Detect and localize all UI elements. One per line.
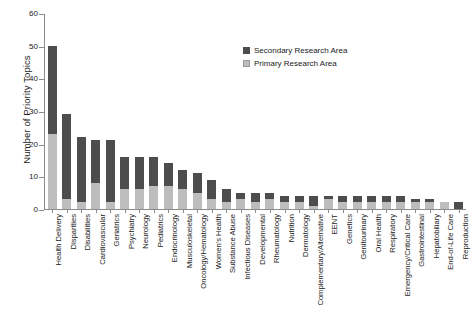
bar-segment-primary[interactable]: [265, 199, 274, 209]
stacked-bar[interactable]: [48, 46, 57, 209]
bar-segment-primary[interactable]: [164, 186, 173, 209]
bar-segment-secondary[interactable]: [251, 193, 260, 203]
bar-segment-secondary[interactable]: [178, 170, 187, 190]
bar-segment-secondary[interactable]: [91, 140, 100, 182]
stacked-bar[interactable]: [324, 196, 333, 209]
bar-slot[interactable]: [234, 14, 249, 209]
bar-slot[interactable]: [89, 14, 104, 209]
bar-slot[interactable]: [248, 14, 263, 209]
bar-segment-primary[interactable]: [120, 189, 129, 209]
bar-slot[interactable]: [103, 14, 118, 209]
stacked-bar[interactable]: [265, 193, 274, 209]
x-axis-label: Reproduction: [462, 214, 470, 259]
stacked-bar[interactable]: [251, 193, 260, 209]
bar-slot[interactable]: [393, 14, 408, 209]
bar-segment-secondary[interactable]: [207, 180, 216, 200]
bar-slot[interactable]: [437, 14, 452, 209]
x-axis-tick: [226, 209, 227, 213]
bar-slot[interactable]: [306, 14, 321, 209]
bar-slot[interactable]: [350, 14, 365, 209]
stacked-bar[interactable]: [295, 196, 304, 209]
stacked-bar[interactable]: [207, 180, 216, 209]
bar-slot[interactable]: [45, 14, 60, 209]
legend-item-primary: Primary Research Area: [243, 58, 347, 69]
x-axis-tick: [459, 209, 460, 213]
bar-slot[interactable]: [205, 14, 220, 209]
x-axis-tick: [81, 209, 82, 213]
bar-slot[interactable]: [118, 14, 133, 209]
stacked-bar[interactable]: [178, 170, 187, 209]
stacked-bar[interactable]: [396, 196, 405, 209]
bar-slot[interactable]: [132, 14, 147, 209]
bar-segment-secondary[interactable]: [309, 196, 318, 206]
stacked-bar[interactable]: [91, 140, 100, 209]
bar-segment-secondary[interactable]: [120, 157, 129, 190]
bar-slot[interactable]: [451, 14, 466, 209]
bar-slot[interactable]: [60, 14, 75, 209]
bar-segment-primary[interactable]: [324, 199, 333, 209]
stacked-bar[interactable]: [62, 114, 71, 209]
stacked-bar[interactable]: [149, 157, 158, 209]
bar-slot[interactable]: [292, 14, 307, 209]
bar-segment-primary[interactable]: [149, 186, 158, 209]
bar-segment-secondary[interactable]: [62, 114, 71, 199]
bar-segment-primary[interactable]: [178, 189, 187, 209]
bar-slot[interactable]: [364, 14, 379, 209]
stacked-bar[interactable]: [382, 196, 391, 209]
bar-slot[interactable]: [408, 14, 423, 209]
bar-slot[interactable]: [161, 14, 176, 209]
stacked-bar[interactable]: [193, 173, 202, 209]
stacked-bar[interactable]: [353, 196, 362, 209]
stacked-bar[interactable]: [367, 196, 376, 209]
stacked-bar[interactable]: [164, 163, 173, 209]
bar-segment-primary[interactable]: [135, 189, 144, 209]
bar-slot[interactable]: [263, 14, 278, 209]
x-axis-label: Health Delivery: [55, 214, 63, 266]
bar-segment-primary[interactable]: [62, 199, 71, 209]
x-axis-tick: [183, 209, 184, 213]
bar-segment-secondary[interactable]: [149, 157, 158, 186]
x-axis-tick: [270, 209, 271, 213]
bar-slot[interactable]: [219, 14, 234, 209]
bar-slot[interactable]: [176, 14, 191, 209]
bar-segment-primary[interactable]: [48, 134, 57, 209]
bar-segment-secondary[interactable]: [77, 137, 86, 202]
bar-segment-secondary[interactable]: [193, 173, 202, 193]
bar-slot[interactable]: [335, 14, 350, 209]
stacked-bar[interactable]: [135, 157, 144, 209]
x-axis-tick: [52, 209, 53, 213]
bar-slot[interactable]: [379, 14, 394, 209]
bar-segment-secondary[interactable]: [135, 157, 144, 190]
bar-segment-secondary[interactable]: [48, 46, 57, 134]
bar-slot[interactable]: [147, 14, 162, 209]
bar-segment-primary[interactable]: [193, 193, 202, 209]
x-axis-label: Gastrointestinal: [418, 214, 426, 267]
stacked-bar[interactable]: [338, 196, 347, 209]
stacked-bar[interactable]: [236, 193, 245, 209]
x-axis-tick: [415, 209, 416, 213]
x-axis-tick: [212, 209, 213, 213]
bar-segment-secondary[interactable]: [222, 189, 231, 202]
bar-segment-primary[interactable]: [207, 199, 216, 209]
y-axis-tick-label: 30: [16, 108, 38, 116]
x-axis-tick: [255, 209, 256, 213]
bar-segment-primary[interactable]: [91, 183, 100, 209]
bar-slot[interactable]: [74, 14, 89, 209]
stacked-bar[interactable]: [411, 199, 420, 209]
bar-segment-secondary[interactable]: [164, 163, 173, 186]
stacked-bar[interactable]: [425, 199, 434, 209]
stacked-bar[interactable]: [222, 189, 231, 209]
stacked-bar[interactable]: [106, 140, 115, 209]
bar-segment-secondary[interactable]: [106, 140, 115, 202]
x-axis-label: Nutrition: [288, 214, 296, 242]
stacked-bar[interactable]: [309, 196, 318, 209]
bar-slot[interactable]: [277, 14, 292, 209]
bar-slot[interactable]: [321, 14, 336, 209]
stacked-bar[interactable]: [120, 157, 129, 209]
stacked-bar[interactable]: [280, 196, 289, 209]
bar-slot[interactable]: [422, 14, 437, 209]
stacked-bar[interactable]: [77, 137, 86, 209]
x-axis-tick: [314, 209, 315, 213]
bar-slot[interactable]: [190, 14, 205, 209]
bar-segment-primary[interactable]: [236, 199, 245, 209]
